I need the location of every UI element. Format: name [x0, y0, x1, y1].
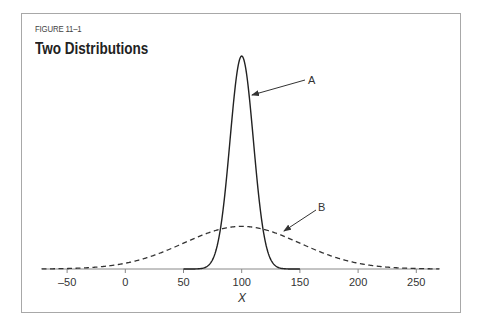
chart-area: –50050100150200250 A B X — [0, 0, 481, 328]
x-axis-title: X — [237, 291, 247, 305]
label-a: A — [308, 74, 316, 86]
arrow-b — [284, 210, 316, 231]
x-tick-label: 200 — [349, 276, 367, 288]
label-b: B — [318, 201, 325, 213]
x-tick-label: 250 — [407, 276, 425, 288]
x-tick-label: 0 — [122, 276, 128, 288]
x-tick-label: 150 — [291, 276, 309, 288]
arrow-a — [252, 80, 305, 95]
x-axis-ticks: –50050100150200250 — [58, 269, 426, 288]
x-tick-label: 100 — [233, 276, 251, 288]
curve-b-dashed — [41, 226, 439, 268]
x-tick-label: 50 — [177, 276, 189, 288]
x-tick-label: –50 — [58, 276, 76, 288]
curve-a-solid — [184, 56, 300, 269]
